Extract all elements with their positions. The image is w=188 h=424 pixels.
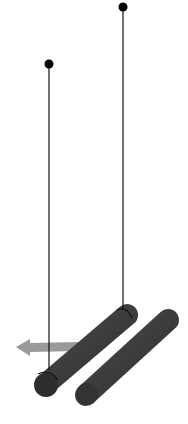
pivot-right-icon bbox=[119, 3, 128, 12]
pivot-left-icon bbox=[45, 60, 54, 69]
rods-diagram bbox=[0, 0, 188, 424]
diagram-canvas bbox=[0, 0, 188, 424]
